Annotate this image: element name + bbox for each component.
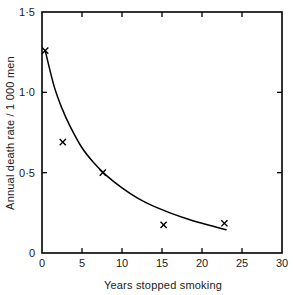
x-axis-title: Years stopped smoking bbox=[104, 279, 222, 291]
y-axis-title: Annual death rate / 1 000 men bbox=[4, 56, 16, 210]
y-tick-label: 0·5 bbox=[19, 167, 35, 179]
chart-background bbox=[0, 0, 293, 295]
y-tick-label: 0 bbox=[29, 247, 35, 259]
x-tick-label: 5 bbox=[79, 257, 85, 269]
death-rate-vs-years-stopped-smoking-chart: 051015202530 00·51·01·5 Years stopped sm… bbox=[0, 0, 293, 295]
y-tick-label: 1·0 bbox=[19, 86, 35, 98]
x-tick-label: 10 bbox=[116, 257, 128, 269]
y-tick-label: 1·5 bbox=[19, 6, 35, 18]
x-tick-label: 0 bbox=[39, 257, 45, 269]
chart-figure: 051015202530 00·51·01·5 Years stopped sm… bbox=[0, 0, 293, 295]
x-tick-label: 30 bbox=[276, 257, 288, 269]
x-tick-label: 20 bbox=[196, 257, 208, 269]
x-tick-label: 25 bbox=[236, 257, 248, 269]
x-tick-label: 15 bbox=[156, 257, 168, 269]
